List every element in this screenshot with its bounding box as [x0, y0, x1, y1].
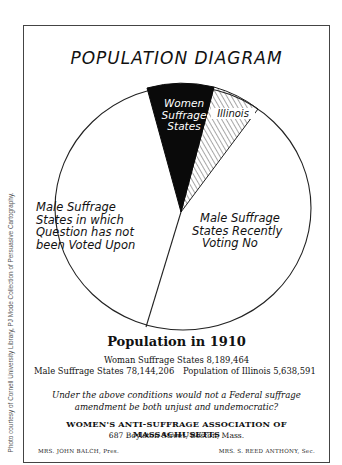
label-line: been Voted Upon: [36, 239, 156, 252]
question-line: amendment be both unjust and undemocrati…: [24, 402, 329, 414]
label-illinois: Illinois: [211, 108, 255, 119]
president-name: MRS. JOHN BALCH, Pres.: [38, 448, 119, 454]
population-title: Population in 1910: [24, 334, 329, 349]
secretary-name: MRS. S. REED ANTHONY, Sec.: [219, 448, 315, 454]
label-line: States: [152, 121, 216, 133]
stat-illinois: Population of Illinois 5,638,591: [183, 366, 316, 376]
question-line: Under the above conditions would not a F…: [24, 390, 329, 402]
poster: POPULATION DIAGRAM Women Suffrage States…: [23, 25, 330, 463]
photo-credit-text: Photo courtesy of Cornell University Lib…: [8, 193, 15, 453]
label-women-suffrage: Women Suffrage States: [152, 98, 216, 133]
label-line: Voting No: [192, 237, 312, 250]
label-line: Male Suffrage: [36, 201, 156, 214]
stat-male-states: Male Suffrage States 78,144,206: [34, 366, 174, 376]
stat-women-states: Woman Suffrage States 8,189,464: [24, 355, 329, 365]
label-line: Women: [152, 98, 216, 110]
label-not-voted: Male Suffrage States in which Question h…: [36, 201, 156, 252]
organization-address: 687 Boylston Street, Boston, Mass.: [24, 431, 329, 440]
question-text: Under the above conditions would not a F…: [24, 390, 329, 413]
label-voting-no: Male Suffrage States Recently Voting No: [192, 212, 312, 250]
photo-credit: Photo courtesy of Cornell University Lib…: [0, 180, 22, 465]
label-line: Male Suffrage: [192, 212, 312, 225]
